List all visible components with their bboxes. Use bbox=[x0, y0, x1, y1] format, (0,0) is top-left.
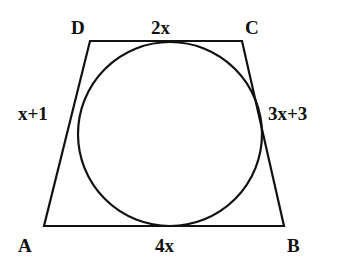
inscribed-circle bbox=[78, 42, 262, 226]
vertex-label-b: B bbox=[287, 236, 300, 255]
side-label-ab: 4x bbox=[155, 236, 174, 255]
vertex-label-c: C bbox=[245, 18, 259, 37]
quadrilateral-diagram bbox=[0, 0, 340, 271]
side-label-dc: 2x bbox=[151, 18, 170, 37]
vertex-label-a: A bbox=[18, 236, 32, 255]
quadrilateral-abcd bbox=[44, 41, 284, 226]
vertex-label-d: D bbox=[71, 18, 85, 37]
side-label-bc: 3x+3 bbox=[268, 104, 307, 123]
side-label-ad: x+1 bbox=[18, 104, 48, 123]
